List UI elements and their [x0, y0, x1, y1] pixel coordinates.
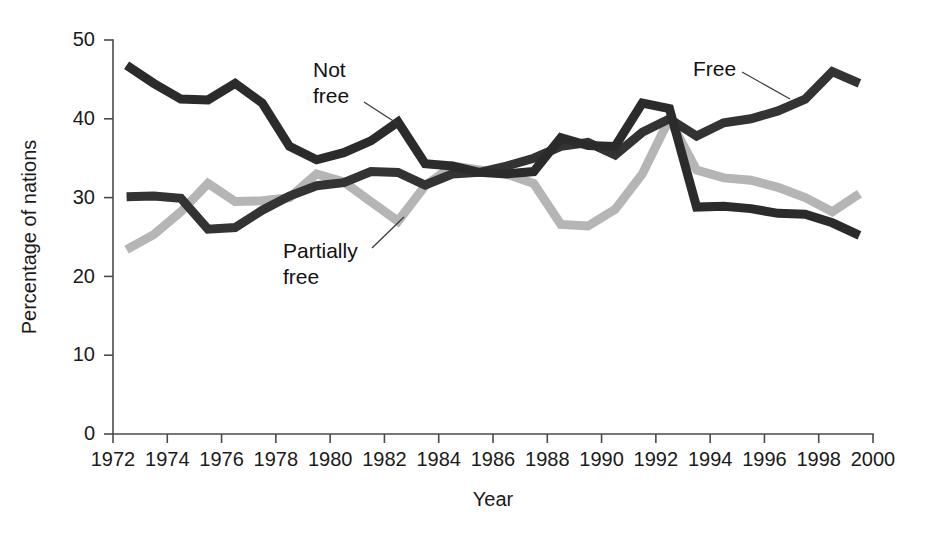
x-tick-label: 1984 [416, 448, 461, 470]
x-tick-group: 1972197419761978198019821984198619881990… [91, 434, 896, 470]
x-tick-label: 1992 [634, 448, 679, 470]
x-tick-label: 1974 [145, 448, 190, 470]
annotation-partially-free-line1: Partially [283, 239, 358, 262]
y-tick-label: 0 [84, 422, 95, 444]
x-tick-label: 1988 [525, 448, 570, 470]
y-tick-label: 40 [73, 107, 95, 129]
x-tick-label: 1996 [742, 448, 787, 470]
y-tick-group: 01020304050 [73, 28, 113, 444]
x-tick-label: 1998 [796, 448, 841, 470]
annotation-not-free-line2: free [313, 84, 349, 107]
series-line-not-free [127, 65, 860, 235]
x-tick-label: 1980 [308, 448, 353, 470]
x-tick-label: 1986 [471, 448, 516, 470]
annotation-partially-free-leader [372, 217, 404, 248]
x-tick-label: 1972 [91, 448, 136, 470]
annotation-not-free-line1: Not [313, 58, 346, 81]
annotation-free: Free [693, 57, 790, 99]
y-tick-label: 10 [73, 343, 95, 365]
y-tick-label: 50 [73, 28, 95, 50]
x-tick-label: 1994 [688, 448, 733, 470]
series-group [127, 65, 860, 249]
x-axis-title: Year [473, 488, 514, 510]
axes-group [113, 40, 873, 434]
y-tick-label: 20 [73, 265, 95, 287]
x-tick-label: 1976 [199, 448, 244, 470]
y-tick-label: 30 [73, 186, 95, 208]
annotation-free-line1: Free [693, 57, 736, 80]
annotation-free-leader [742, 72, 790, 99]
x-tick-label: 1978 [254, 448, 299, 470]
x-tick-label: 1982 [362, 448, 407, 470]
chart-figure: 01020304050 1972197419761978198019821984… [0, 0, 946, 537]
annotation-not-free: Not free [313, 58, 398, 124]
annotation-partially-free: Partially free [283, 217, 404, 288]
x-tick-label: 2000 [851, 448, 896, 470]
x-tick-label: 1990 [579, 448, 624, 470]
annotation-partially-free-line2: free [283, 265, 319, 288]
line-chart: 01020304050 1972197419761978198019821984… [0, 0, 946, 537]
annotation-not-free-leader [364, 102, 398, 124]
y-axis-title: Percentage of nations [18, 140, 40, 335]
